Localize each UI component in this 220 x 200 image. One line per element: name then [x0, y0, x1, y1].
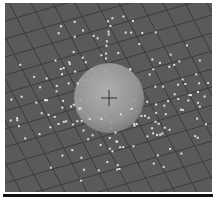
- status-bar: [3, 194, 213, 197]
- 3d-viewport[interactable]: [5, 3, 212, 192]
- scene-canvas: [5, 3, 212, 192]
